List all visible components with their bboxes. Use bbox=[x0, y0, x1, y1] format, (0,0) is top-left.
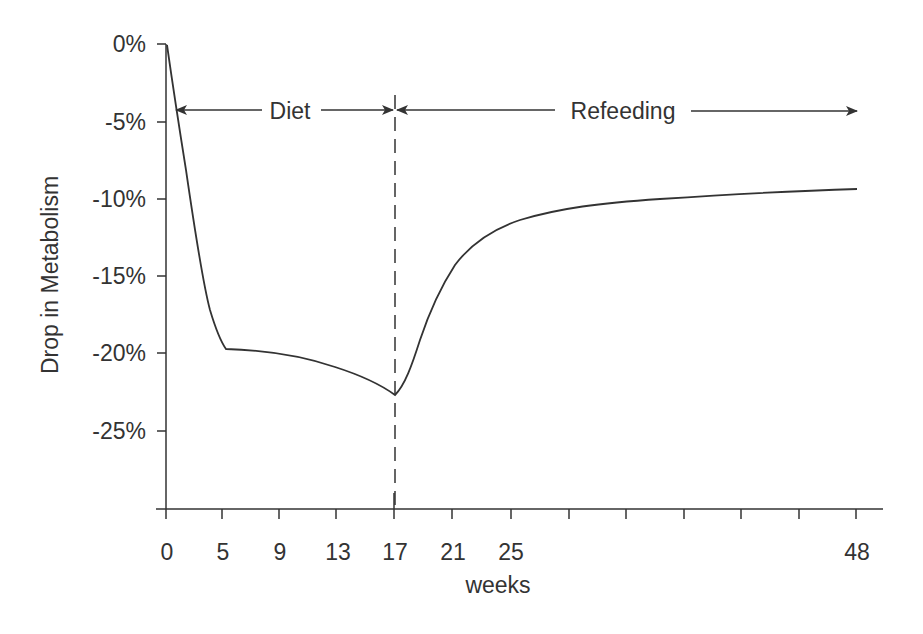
y-tick-20: -20% bbox=[92, 340, 146, 366]
x-tick-13: 13 bbox=[325, 539, 351, 565]
y-axis-title: Drop in Metabolism bbox=[37, 176, 63, 374]
x-tick-labels: 0 5 9 13 17 21 25 48 bbox=[161, 539, 870, 565]
x-tick-9: 9 bbox=[274, 539, 287, 565]
x-tick-5: 5 bbox=[217, 539, 230, 565]
y-tick-labels: 0% -5% -10% -15% -20% -25% bbox=[92, 31, 146, 444]
x-axis-title: weeks bbox=[464, 572, 530, 598]
y-tick-25: -25% bbox=[92, 418, 146, 444]
x-tick-48: 48 bbox=[844, 539, 870, 565]
diet-label: Diet bbox=[270, 98, 312, 124]
y-tick-10: -10% bbox=[92, 186, 146, 212]
x-tick-25: 25 bbox=[498, 539, 524, 565]
y-tick-5: -5% bbox=[105, 109, 146, 135]
y-axis bbox=[157, 44, 166, 509]
x-tick-0: 0 bbox=[161, 539, 174, 565]
x-tick-17: 17 bbox=[382, 539, 408, 565]
y-tick-0: 0% bbox=[113, 31, 146, 57]
metabolism-chart: 0% -5% -10% -15% -20% -25% 0 5 9 13 17 2… bbox=[0, 0, 923, 634]
x-axis bbox=[156, 493, 883, 519]
refeeding-label: Refeeding bbox=[571, 98, 676, 124]
y-tick-15: -15% bbox=[92, 263, 146, 289]
x-tick-21: 21 bbox=[440, 539, 466, 565]
